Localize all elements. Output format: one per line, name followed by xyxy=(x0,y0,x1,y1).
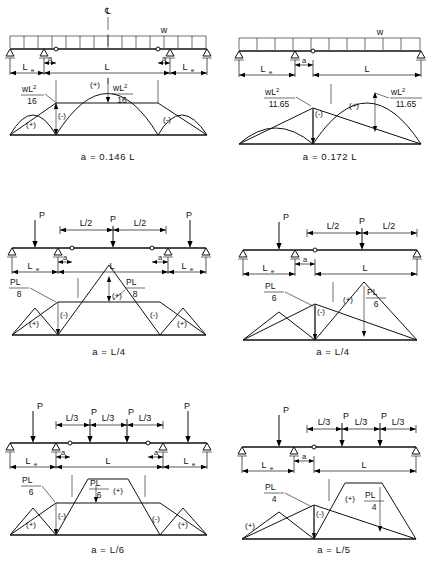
dim-row: L e L L e xyxy=(10,58,207,75)
hinge xyxy=(312,445,316,449)
panel-4: P P L/2 L/2 xyxy=(217,190,434,360)
dim-l-mid-label: L xyxy=(105,456,110,466)
panel-3-caption: a = L/4 xyxy=(92,346,126,357)
dim-l-label: L xyxy=(362,263,367,273)
support-roller-3 xyxy=(165,49,175,58)
svg-text:wL2: wL2 xyxy=(264,87,280,97)
moment-right-num: PL xyxy=(126,277,137,287)
panel-6-caption: a = L/5 xyxy=(317,544,351,555)
hinge xyxy=(311,49,315,53)
dim-l2-left-label: L/2 xyxy=(80,218,93,228)
ordinate-arrow-center xyxy=(106,78,110,103)
support-roller-left xyxy=(5,49,15,58)
sign-plus-right: (+) xyxy=(178,520,188,529)
panel-1: ℄ w xyxy=(0,0,217,170)
panel-5: P P P P L/3 L/3 xyxy=(0,375,217,560)
sign-plus: (+) xyxy=(349,101,359,110)
moment-right-den: 4 xyxy=(372,502,377,512)
moment-left-den: 6 xyxy=(29,487,34,497)
point-load-1: P xyxy=(32,210,45,248)
dim-le-left-sub: e xyxy=(31,67,35,73)
sign-minus-right: (-) xyxy=(152,514,160,523)
uniform-load-arrows xyxy=(10,36,206,48)
dim-le-right-sub: e xyxy=(192,461,196,467)
sign-minus-right: (-) xyxy=(150,310,158,319)
moment-left-den: 8 xyxy=(17,289,22,299)
dim-le-right-label: L xyxy=(183,456,188,466)
moment-left-exp: 2 xyxy=(276,87,280,93)
moment-right-num: wL xyxy=(112,83,124,93)
support-roller-left xyxy=(5,443,15,452)
moment-diagram: (+) (-) (+) (-) xyxy=(10,78,207,135)
dim-l-label: L xyxy=(361,460,366,470)
moment-left-den: 6 xyxy=(272,293,277,303)
hinge-right xyxy=(146,441,150,445)
moment-diagram: (+) (-) (+) (-) (+) xyxy=(12,265,206,335)
panel-1-caption: a = 0.146 L xyxy=(81,151,135,162)
support-roller-left xyxy=(234,51,244,60)
moment-label-right: PL 6 xyxy=(366,287,386,309)
panel-6: P P P L/3 L/3 L/3 xyxy=(217,375,434,560)
dim-l3-2-label: L/3 xyxy=(102,413,115,423)
dim-row: L e L L e xyxy=(10,452,207,469)
dim-l3-1: L/3 xyxy=(56,413,90,429)
sign-plus-left: (+) xyxy=(245,521,255,530)
sign-plus: (+) xyxy=(343,295,353,304)
moment-label-center: PL 6 xyxy=(89,478,109,500)
dim-a-label: a xyxy=(303,255,308,264)
dim-le-label: L xyxy=(262,263,267,273)
moment-left-num: PL xyxy=(265,482,276,492)
sign-plus-center: (+) xyxy=(112,291,122,300)
panel-2-caption: a = 0.172 L xyxy=(303,151,357,162)
dim-l2-left: L/2 xyxy=(60,218,113,234)
moment-left-exp: 2 xyxy=(33,84,37,90)
svg-text:wL2: wL2 xyxy=(112,83,128,93)
moment-label-left: PL 6 xyxy=(21,475,55,502)
dim-l3-1-label: L/3 xyxy=(318,417,331,427)
moment-left-num: PL xyxy=(22,475,33,485)
point-load-1: P xyxy=(30,401,43,443)
moment-left-num: wL xyxy=(264,87,276,97)
support-roller-3 xyxy=(158,443,168,452)
support-roller-mid xyxy=(289,447,299,456)
hinge-left xyxy=(70,246,74,250)
support-roller-left xyxy=(237,447,247,456)
point-load-1-label: P xyxy=(39,210,45,220)
sign-minus: (-) xyxy=(316,509,324,518)
dim-l3-3-label: L/3 xyxy=(392,417,405,427)
sign-minus-left: (-) xyxy=(58,511,66,520)
ordinate-arrow-center xyxy=(107,276,111,302)
moment-left-den: 16 xyxy=(27,96,37,106)
dim-le-right-label: L xyxy=(182,62,187,72)
point-load-2-label: P xyxy=(110,214,116,224)
dim-l2-right-label: L/2 xyxy=(134,218,147,228)
support-roller-right xyxy=(202,49,212,58)
support-roller-2 xyxy=(53,248,63,257)
moment-right-num: PL xyxy=(365,490,376,500)
hinge-right xyxy=(156,47,160,51)
point-load-2-label: P xyxy=(359,216,365,226)
hinge xyxy=(313,248,317,252)
moment-right-den: 8 xyxy=(133,289,138,299)
sign-plus-center: (+) xyxy=(345,494,355,503)
panel-4-caption: a = L/4 xyxy=(316,346,350,357)
moment-right-num: PL xyxy=(90,478,101,488)
panel-3: P P P L/2 L/2 xyxy=(0,190,217,360)
point-load-2: P xyxy=(110,214,116,248)
dim-l3-1: L/3 xyxy=(307,417,342,433)
support-roller-3 xyxy=(163,248,173,257)
point-load-1: P xyxy=(276,405,289,447)
moment-label-left: PL 6 xyxy=(264,281,313,306)
point-load-3: P xyxy=(186,210,193,248)
dim-a-label: a xyxy=(302,452,307,461)
svg-text:wL2: wL2 xyxy=(21,84,37,94)
support-roller-mid xyxy=(290,51,300,60)
sign-plus-center: (+) xyxy=(90,80,100,89)
dim-le-left-label: L xyxy=(25,456,30,466)
sign-minus: (-) xyxy=(315,109,323,118)
moment-right-num: wL xyxy=(390,87,402,97)
point-load-2-label: P xyxy=(343,411,349,421)
moment-label-left: PL 8 xyxy=(9,277,56,302)
ordinate-arrow-right xyxy=(378,487,382,532)
load-symbol-w: w xyxy=(376,27,384,37)
